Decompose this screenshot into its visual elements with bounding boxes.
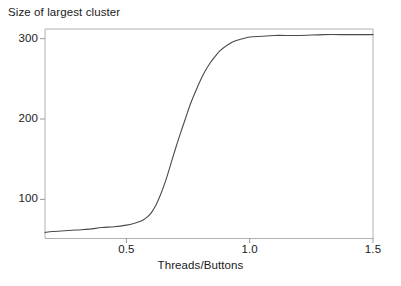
y-tick-label: 300 (4, 32, 38, 44)
x-tick-label: 1.5 (353, 243, 393, 255)
y-tick-label: 200 (4, 112, 38, 124)
plot-frame (45, 29, 373, 238)
x-tick-label: 1.0 (230, 243, 270, 255)
x-tick-label: 0.5 (106, 243, 146, 255)
y-tick-label: 100 (4, 192, 38, 204)
data-series-line (45, 35, 373, 233)
x-axis-label: Threads/Buttons (0, 259, 401, 271)
plot-canvas (0, 0, 401, 286)
chart-figure: Size of largest cluster 100 200 300 0.5 … (0, 0, 401, 286)
y-tick-marks (40, 39, 45, 200)
